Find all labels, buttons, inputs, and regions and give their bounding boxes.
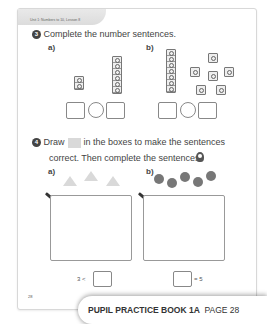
q4a-sentence-left: 3 < (77, 276, 86, 282)
circle-dot (180, 172, 190, 182)
book-page: PAGE 28 (205, 305, 240, 315)
q3a-symbol-circle[interactable] (88, 102, 104, 118)
triangle (106, 176, 120, 186)
unit-label: Unit 1: Numbers to 10, Lesson 8 (30, 18, 80, 22)
q3b-answer-box-left[interactable] (158, 102, 177, 119)
q3a-answer-box-right[interactable] (106, 102, 125, 119)
q4-heading: 4 Drawin the boxes to make the sentences (32, 137, 225, 148)
q4b-draw-box[interactable] (143, 195, 225, 261)
q4b-sentence-right: = 5 (194, 276, 203, 282)
page-number: 28 (28, 294, 32, 299)
q3-heading: 3 Complete the number sentences. (32, 29, 176, 39)
q4b-answer-box[interactable] (173, 271, 192, 287)
q4-number: 4 (32, 138, 41, 147)
triangle (63, 176, 77, 186)
book-page-banner: PUPIL PRACTICE BOOK 1A PAGE 28 (78, 296, 267, 324)
q3b-symbol-circle[interactable] (180, 102, 196, 118)
q3a-answer-box-left[interactable] (66, 102, 85, 119)
circle-dot (167, 178, 177, 188)
single-cube (208, 53, 218, 63)
q3-instruction: Complete the number sentences. (44, 29, 177, 39)
workbook-page: Unit 1: Numbers to 10, Lesson 8 3 Comple… (17, 8, 257, 310)
q4a-label: a) (48, 167, 55, 176)
q3b-label: b) (146, 43, 154, 52)
single-cube (208, 71, 218, 81)
lightbulb-icon (196, 152, 204, 162)
q3b-answer-box-right[interactable] (198, 102, 217, 119)
cube-stack-6 (112, 56, 122, 94)
circle-dot (154, 174, 164, 184)
q4-instruction-line2: correct. Then complete the sentences. (49, 153, 202, 163)
cube-stack-7 (166, 49, 176, 93)
triangle (84, 171, 98, 181)
cube-stack-2 (74, 76, 84, 90)
single-cube (190, 67, 200, 77)
q4a-answer-box[interactable] (93, 271, 112, 287)
grey-square-swatch (68, 138, 81, 148)
unit-tab: Unit 1: Numbers to 10, Lesson 8 (18, 9, 106, 25)
q4a-draw-box[interactable] (50, 195, 132, 261)
single-cube (216, 85, 226, 95)
book-title: PUPIL PRACTICE BOOK 1A (88, 305, 200, 315)
circle-dot (193, 177, 203, 187)
q3-number: 3 (32, 30, 41, 39)
q4b-label: b) (146, 167, 154, 176)
q3a-label: a) (48, 43, 55, 52)
circle-dot (206, 171, 216, 181)
single-cube (196, 85, 206, 95)
single-cube (224, 67, 234, 77)
